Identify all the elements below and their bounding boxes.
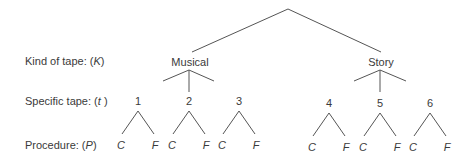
node-musical: Musical bbox=[171, 57, 208, 68]
leaf-t1-f: F bbox=[152, 140, 159, 151]
leaf-t2-c: C bbox=[168, 140, 176, 151]
leaf-t2-f: F bbox=[203, 140, 210, 151]
label-text: Kind of tape: ( bbox=[25, 55, 94, 67]
leaf-t5-c: C bbox=[359, 142, 367, 153]
leaf-t1-c: C bbox=[117, 140, 125, 151]
leaf-t4-f: F bbox=[343, 142, 350, 153]
leaf-t5-f: F bbox=[394, 142, 401, 153]
node-tape-5: 5 bbox=[377, 98, 383, 109]
label-text: Specific tape: ( bbox=[25, 95, 98, 107]
row-label-kind: Kind of tape: (K) bbox=[25, 56, 105, 67]
label-text: Procedure: ( bbox=[25, 139, 86, 151]
label-close: ) bbox=[101, 55, 105, 67]
leaf-t3-f: F bbox=[253, 140, 260, 151]
node-tape-3: 3 bbox=[236, 96, 242, 107]
leaf-t6-c: C bbox=[409, 142, 417, 153]
label-close: ) bbox=[93, 139, 97, 151]
label-close: ) bbox=[101, 95, 108, 107]
label-var: P bbox=[86, 139, 93, 151]
leaf-t3-c: C bbox=[218, 140, 226, 151]
tree-lines bbox=[0, 0, 474, 162]
label-var: K bbox=[94, 55, 101, 67]
node-tape-6: 6 bbox=[427, 98, 433, 109]
leaf-t4-c: C bbox=[308, 142, 316, 153]
leaf-t6-f: F bbox=[444, 142, 451, 153]
row-label-specific: Specific tape: (t ) bbox=[25, 96, 108, 107]
node-tape-2: 2 bbox=[186, 96, 192, 107]
node-tape-4: 4 bbox=[326, 98, 332, 109]
row-label-procedure: Procedure: (P) bbox=[25, 140, 97, 151]
node-tape-1: 1 bbox=[135, 96, 141, 107]
node-story: Story bbox=[368, 57, 394, 68]
